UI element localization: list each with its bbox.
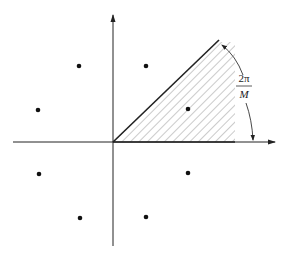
point	[144, 64, 149, 69]
angle-label-denominator: M	[234, 88, 254, 100]
point	[37, 172, 42, 177]
angle-arc-lower	[246, 103, 253, 140]
point	[36, 108, 41, 113]
constellation-diagram	[0, 0, 286, 253]
point	[144, 215, 149, 220]
point	[77, 64, 82, 69]
point	[186, 107, 191, 112]
point	[78, 216, 83, 221]
point	[186, 171, 191, 176]
decision-region	[113, 42, 235, 142]
angle-label-numerator: 2π	[234, 72, 254, 84]
